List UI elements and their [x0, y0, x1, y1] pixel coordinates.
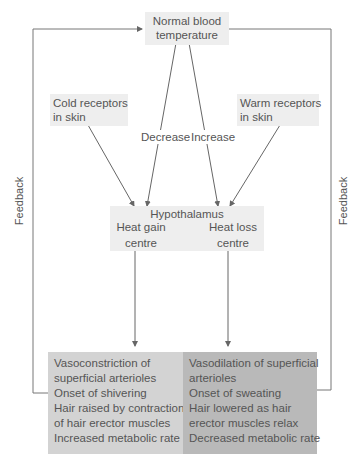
heat-gain-effects-box: Vasoconstriction of superficial arteriol… — [48, 352, 183, 454]
top-line1: Normal blood — [145, 14, 229, 28]
cold-line2: in skin — [53, 110, 128, 124]
warm-line2: in skin — [240, 110, 319, 124]
gain-effect-line: Onset of shivering — [54, 386, 183, 401]
cold-line1: Cold receptors — [53, 96, 128, 110]
heat-loss-line2: centre — [204, 236, 262, 250]
loss-effect-line: Onset of sweating — [189, 386, 317, 401]
loss-effect-line: arterioles — [189, 371, 317, 386]
gain-effect-line: Hair raised by contraction — [54, 401, 183, 416]
gain-effect-line: of hair erector muscles — [54, 416, 183, 431]
heat-loss-effects-box: Vasodilation of superficial arterioles O… — [183, 352, 317, 454]
loss-effect-line: Vasodilation of superficial — [189, 356, 317, 371]
gain-effect-line: superficial arterioles — [54, 371, 183, 386]
increase-label: Increase — [190, 130, 236, 144]
cold-receptors-box: Cold receptors in skin — [50, 94, 128, 126]
feedback-left-label: Feedback — [13, 176, 25, 226]
warm-receptors-box: Warm receptors in skin — [237, 94, 319, 126]
hypothalamus-title: Hypothalamus — [110, 207, 264, 221]
gain-effect-line: Vasoconstriction of — [54, 356, 183, 371]
heat-gain-centre: Heat gain centre — [113, 220, 169, 250]
warm-line1: Warm receptors — [240, 96, 319, 110]
loss-effect-line: Hair lowered as hair — [189, 401, 317, 416]
heat-loss-line1: Heat loss — [204, 220, 262, 234]
decrease-label: Decrease — [140, 130, 191, 144]
heat-gain-line1: Heat gain — [113, 220, 169, 234]
top-line2: temperature — [145, 28, 229, 42]
gain-effect-line: Increased metabolic rate — [54, 431, 183, 446]
loss-effect-line: Decreased metabolic rate — [189, 431, 317, 446]
feedback-right-label: Feedback — [337, 176, 349, 226]
hypothalamus-box: Hypothalamus Heat gain centre Heat loss … — [110, 206, 264, 251]
loss-effect-line: erector muscles relax — [189, 416, 317, 431]
heat-loss-centre: Heat loss centre — [204, 220, 262, 250]
heat-gain-line2: centre — [113, 236, 169, 250]
normal-blood-temperature-box: Normal blood temperature — [145, 12, 229, 45]
